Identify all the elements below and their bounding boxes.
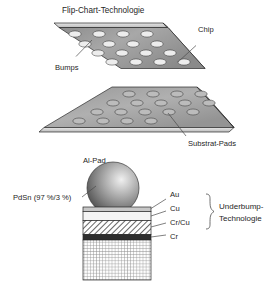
pdsn-label: PdSn (97 %/3 %) [13,193,72,202]
diagram-text-layer: Flip-Chart-Technologie Bumps Chip Substr… [0,0,271,289]
flip-chip-technology-diagram: Flip-Chart-Technologie Bumps Chip Substr… [0,0,271,289]
underbump-label-line2: Technologie [219,214,262,223]
layer-label-cr-cu: Cr/Cu [170,218,190,227]
al-pad-label: Al-Pad [83,156,106,165]
layer-label-au: Au [170,190,179,199]
chip-label: Chip [198,25,214,34]
substrat-pads-label: Substrat-Pads [188,139,236,148]
layer-label-cr: Cr [170,232,178,241]
underbump-label-line1: Underbump- [219,202,264,211]
figure-title: Flip-Chart-Technologie [62,6,145,15]
bumps-label: Bumps [55,63,79,72]
layer-label-cu: Cu [170,204,180,213]
